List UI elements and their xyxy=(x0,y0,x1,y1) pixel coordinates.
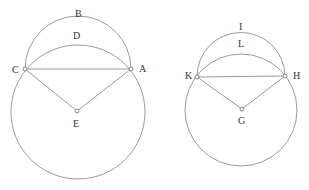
point-e xyxy=(75,109,79,113)
geometry-diagram: B D C A E I L K H G xyxy=(0,0,309,190)
point-h xyxy=(283,74,287,78)
label-c: C xyxy=(12,64,19,75)
point-a xyxy=(129,67,133,71)
label-a: A xyxy=(139,63,147,74)
label-d: D xyxy=(73,30,80,41)
segment-ae xyxy=(77,69,131,111)
chord-kh xyxy=(197,76,285,77)
label-g: G xyxy=(238,115,245,126)
point-g xyxy=(240,107,244,111)
arc-cba xyxy=(25,16,131,69)
label-b: B xyxy=(75,8,82,19)
point-k xyxy=(195,75,199,79)
label-e: E xyxy=(73,118,79,129)
right-figure: I L K H G xyxy=(185,21,300,166)
point-c xyxy=(23,67,27,71)
segment-hg xyxy=(242,76,285,109)
label-l: L xyxy=(238,38,244,49)
segment-ce xyxy=(25,69,77,111)
label-k: K xyxy=(185,70,193,81)
label-i: I xyxy=(239,21,242,32)
left-figure: B D C A E xyxy=(11,8,147,179)
label-h: H xyxy=(293,70,300,81)
segment-kg xyxy=(197,77,242,109)
